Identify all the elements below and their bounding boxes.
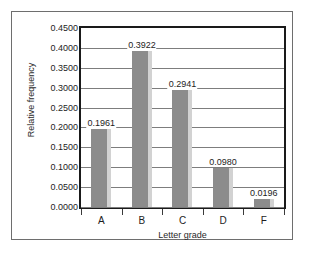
bar-body	[172, 90, 188, 207]
bar-value-label: 0.0980	[208, 157, 238, 167]
x-axis-tick-label: A	[81, 215, 121, 226]
plot-area: 0.19610.39220.29410.09800.0196	[79, 26, 286, 209]
bar-body	[254, 199, 270, 207]
bar-d[interactable]: 0.0980	[203, 28, 244, 207]
x-axis-tick-label: C	[163, 215, 203, 226]
bar-a[interactable]: 0.1961	[81, 28, 122, 207]
y-axis-tick-label: 0.2500	[34, 103, 78, 113]
gridline	[81, 207, 284, 208]
y-axis-tick-label: 0.1500	[34, 142, 78, 152]
y-axis-tick-label: 0.2000	[34, 122, 78, 132]
bar-series: 0.19610.39220.29410.09800.0196	[81, 28, 284, 207]
x-axis-title: Letter grade	[79, 230, 286, 240]
bar-f[interactable]: 0.0196	[243, 28, 284, 207]
y-axis-tick-label: 0.0000	[34, 202, 78, 212]
x-axis-tick-labels: ABCDF	[79, 215, 286, 229]
y-axis-tick-label: 0.4000	[34, 43, 78, 53]
y-axis-tick-label: 0.4500	[34, 23, 78, 33]
bar-body	[213, 168, 229, 207]
bar-body	[91, 129, 107, 207]
x-axis-tick-label: D	[203, 215, 243, 226]
y-axis-tick-label: 0.1000	[34, 162, 78, 172]
x-axis-tick-label: F	[244, 215, 284, 226]
x-axis-tick-label: B	[122, 215, 162, 226]
bar-b[interactable]: 0.3922	[122, 28, 163, 207]
y-axis-tick-label: 0.0500	[34, 182, 78, 192]
bar-value-label: 0.1961	[87, 118, 117, 128]
bar-body	[132, 51, 148, 207]
y-axis-tick-label: 0.3000	[34, 83, 78, 93]
bar-value-label: 0.2941	[168, 79, 198, 89]
chart-figure-frame: Relative frequency 0.45000.40000.35000.3…	[11, 11, 293, 240]
bar-c[interactable]: 0.2941	[162, 28, 203, 207]
bar-value-label: 0.3922	[127, 40, 157, 50]
bar-value-label: 0.0196	[249, 188, 279, 198]
y-axis-tick-labels: 0.45000.40000.35000.30000.25000.20000.15…	[34, 29, 78, 205]
y-axis-tick-label: 0.3500	[34, 63, 78, 73]
